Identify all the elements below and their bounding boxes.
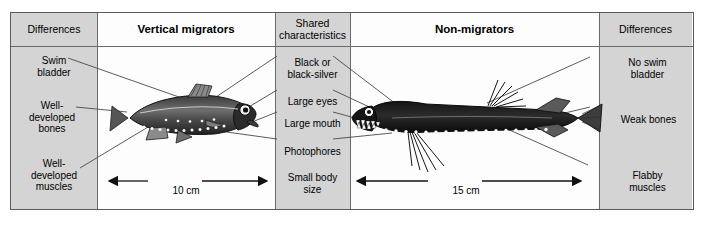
label-muscles-line2: developed <box>31 170 77 181</box>
label-no-swim-line1: No swim <box>628 57 666 68</box>
column-non-migrators <box>350 13 599 209</box>
label-well-developed-bones: Well- developed bones <box>11 100 93 135</box>
label-no-swim-line2: bladder <box>631 69 664 80</box>
label-black-or-black-silver: Black or black-silver <box>275 57 350 80</box>
comparison-table-frame: Differences Vertical migrators Shared ch… <box>10 12 694 210</box>
label-muscles-line1: Well- <box>43 158 66 169</box>
label-bones-line3: bones <box>38 123 65 134</box>
label-photophores: Photophores <box>275 146 350 158</box>
header-non-migrators: Non-migrators <box>350 23 599 36</box>
label-swim-bladder-line2: bladder <box>37 67 70 78</box>
label-bones-line2: developed <box>29 112 75 123</box>
figure-root: Differences Vertical migrators Shared ch… <box>0 0 706 227</box>
label-small-body-line2: size <box>304 184 322 195</box>
label-flabby-line2: muscles <box>629 182 666 193</box>
scale-label-left-fish: 10 cm <box>161 185 211 196</box>
label-muscles-line3: muscles <box>36 181 73 192</box>
scale-label-right-fish: 15 cm <box>441 185 491 196</box>
header-shared-line1: Shared <box>296 17 330 29</box>
label-bones-line1: Well- <box>41 100 64 111</box>
header-shared-characteristics: Shared characteristics <box>275 18 350 42</box>
label-no-swim-bladder: No swim bladder <box>603 57 692 80</box>
header-shared-line2: characteristics <box>279 29 346 41</box>
label-large-mouth: Large mouth <box>275 118 350 130</box>
label-swim-bladder: Swim bladder <box>11 55 97 78</box>
label-small-body-size: Small body size <box>275 172 350 195</box>
header-differences-left: Differences <box>11 24 97 36</box>
label-well-developed-muscles: Well- developed muscles <box>11 158 97 193</box>
divider-1 <box>97 13 98 209</box>
label-swim-bladder-line1: Swim <box>42 55 66 66</box>
label-flabby-line1: Flabby <box>632 170 662 181</box>
header-differences-right: Differences <box>599 24 692 36</box>
label-black-line2: black-silver <box>287 69 337 80</box>
divider-3 <box>350 13 351 209</box>
label-small-body-line1: Small body <box>288 172 337 183</box>
label-flabby-muscles: Flabby muscles <box>603 170 692 193</box>
label-large-eyes: Large eyes <box>275 96 350 108</box>
label-weak-bones: Weak bones <box>605 114 692 126</box>
divider-4 <box>599 13 600 209</box>
header-rule <box>11 46 693 47</box>
column-vertical-migrators <box>97 13 275 209</box>
header-vertical-migrators: Vertical migrators <box>97 23 275 36</box>
label-black-line1: Black or <box>294 57 330 68</box>
